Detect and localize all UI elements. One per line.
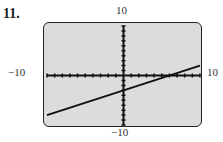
- xmin-label: −10: [8, 66, 25, 78]
- calculator-graph-screen: [43, 22, 202, 127]
- graph-plot: [44, 23, 202, 127]
- xmax-label: 10: [207, 66, 218, 78]
- problem-number: 11.: [3, 6, 20, 22]
- ymin-label: −10: [111, 126, 128, 138]
- ymax-label: 10: [116, 4, 127, 16]
